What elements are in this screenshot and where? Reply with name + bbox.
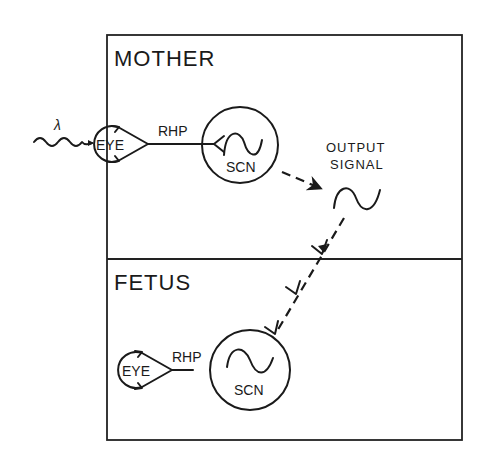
- mother-scn-label: SCN: [226, 159, 256, 175]
- output-signal-sine-icon: [334, 188, 380, 209]
- fetus-rhp-label: RHP: [172, 349, 202, 365]
- arrowhead-2-icon: [286, 281, 300, 294]
- fetus-eye-label: EYE: [122, 363, 150, 379]
- mother-scn-sine-icon: [224, 134, 262, 155]
- mother-eye-label: EYE: [96, 137, 124, 153]
- scn-to-output-arrow: [282, 172, 320, 188]
- fetus-scn-sine-icon: [227, 350, 273, 373]
- mother-rhp-label: RHP: [158, 123, 188, 139]
- fetus-label: FETUS: [114, 270, 191, 295]
- light-wave-icon: [34, 138, 94, 146]
- mother-label: MOTHER: [114, 46, 215, 71]
- light-lambda-label: λ: [53, 117, 61, 133]
- maternal-fetal-circadian-diagram: MOTHER FETUS λ EYE RHP SCN OUTPUT SIGNAL…: [0, 0, 485, 460]
- outer-frame: [107, 35, 462, 440]
- output-label-line1: OUTPUT: [326, 140, 385, 155]
- output-label-line2: SIGNAL: [330, 157, 384, 172]
- arrowhead-3-icon: [265, 321, 278, 334]
- output-to-fetus-arrow: [276, 218, 344, 333]
- fetus-scn-circle: [210, 330, 290, 410]
- mother-rhp-terminal-icon: [214, 136, 224, 152]
- fetus-scn-label: SCN: [234, 382, 264, 398]
